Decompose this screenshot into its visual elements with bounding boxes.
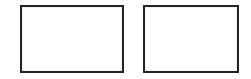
box-right-ghost-text — [152, 9, 233, 20]
box-left-content — [29, 9, 118, 20]
placeholder-box-left[interactable] — [20, 5, 124, 73]
box-inner-rule — [145, 7, 237, 71]
box-inner-rule — [22, 7, 122, 71]
placeholder-box-right[interactable] — [143, 5, 239, 73]
screenshot-canvas — [0, 0, 251, 79]
